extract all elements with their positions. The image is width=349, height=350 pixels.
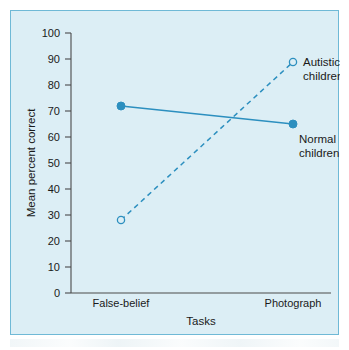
y-tick-label-40: 40 <box>48 183 60 195</box>
series-label-normal-line2: children <box>299 147 339 159</box>
series-label-autistic-line2: children <box>303 70 340 82</box>
series-line-normal-children <box>121 106 293 124</box>
x-tick-label-photograph: Photograph <box>265 297 322 309</box>
y-tick-label-10: 10 <box>48 261 60 273</box>
scan-artifact-strip <box>10 339 339 347</box>
data-point-normal-photograph <box>289 120 297 128</box>
y-tick-label-70: 70 <box>48 105 60 117</box>
y-tick-label-60: 60 <box>48 131 60 143</box>
y-tick-label-0: 0 <box>54 287 60 299</box>
x-axis-title: Tasks <box>186 315 216 327</box>
x-tick-label-false-belief: False-belief <box>93 297 151 309</box>
series-label-autistic-line1: Autistic <box>303 56 340 68</box>
y-axis-title: Mean percent correct <box>25 108 37 217</box>
y-tick-label-90: 90 <box>48 53 60 65</box>
line-chart: 100 90 80 70 60 50 40 30 20 10 0 Mean pe… <box>11 11 340 336</box>
data-point-autistic-photograph <box>289 58 296 65</box>
y-tick-label-30: 30 <box>48 209 60 221</box>
y-tick-label-50: 50 <box>48 157 60 169</box>
figure-panel: 100 90 80 70 60 50 40 30 20 10 0 Mean pe… <box>10 10 339 335</box>
y-tick-label-100: 100 <box>42 27 60 39</box>
series-line-autistic-children <box>121 62 293 220</box>
data-point-autistic-false-belief <box>117 216 124 223</box>
y-tick-label-20: 20 <box>48 235 60 247</box>
series-label-normal-line1: Normal <box>299 133 336 145</box>
data-point-normal-false-belief <box>117 102 125 110</box>
screenshot-root: 100 90 80 70 60 50 40 30 20 10 0 Mean pe… <box>0 0 349 350</box>
y-tick-label-80: 80 <box>48 79 60 91</box>
